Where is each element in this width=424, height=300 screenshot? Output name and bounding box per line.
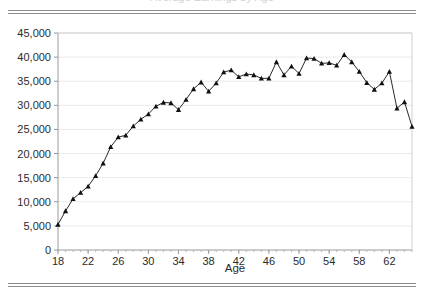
y-tick-label: 45,000 bbox=[17, 27, 51, 39]
data-point-marker bbox=[409, 124, 414, 129]
y-tick-label: 40,000 bbox=[17, 51, 51, 63]
x-tick-label: 34 bbox=[172, 255, 184, 267]
y-tick-label: 15,000 bbox=[17, 172, 51, 184]
x-tick-label: 22 bbox=[82, 255, 94, 267]
bottom-double-rule bbox=[8, 283, 416, 287]
y-tick-label: 30,000 bbox=[17, 99, 51, 111]
x-axis-title: Age bbox=[225, 262, 245, 274]
x-tick-label: 58 bbox=[353, 255, 365, 267]
data-point-marker bbox=[55, 222, 60, 227]
data-point-marker bbox=[63, 208, 68, 213]
data-point-marker bbox=[229, 68, 234, 73]
data-point-marker bbox=[402, 99, 407, 104]
data-point-marker bbox=[387, 69, 392, 74]
chart-figure: Average Earnings by Age 05,00010,00015,0… bbox=[0, 0, 424, 300]
y-tick-label: 35,000 bbox=[17, 75, 51, 87]
line-chart-svg: 05,00010,00015,00020,00025,00030,00035,0… bbox=[0, 24, 424, 274]
data-series-line bbox=[58, 55, 412, 225]
x-tick-label: 50 bbox=[293, 255, 305, 267]
bottom-rule-line-2 bbox=[8, 286, 416, 287]
data-point-marker bbox=[342, 52, 347, 57]
plot-frame bbox=[58, 33, 412, 250]
top-rule-line-1 bbox=[8, 10, 416, 11]
top-double-rule bbox=[8, 10, 416, 14]
x-tick-label: 30 bbox=[142, 255, 154, 267]
data-point-marker bbox=[199, 80, 204, 85]
data-point-marker bbox=[93, 173, 98, 178]
y-tick-label: 25,000 bbox=[17, 123, 51, 135]
gridlines-group bbox=[58, 33, 412, 226]
x-tick-label: 18 bbox=[52, 255, 64, 267]
data-point-markers bbox=[55, 52, 414, 227]
x-tick-label: 26 bbox=[112, 255, 124, 267]
top-rule-line-2 bbox=[8, 13, 416, 14]
x-axis-ticks bbox=[58, 250, 412, 254]
data-point-marker bbox=[274, 59, 279, 64]
data-point-marker bbox=[289, 64, 294, 69]
plot-area: 05,00010,00015,00020,00025,00030,00035,0… bbox=[0, 24, 424, 274]
x-tick-label: 54 bbox=[323, 255, 335, 267]
y-axis-ticks bbox=[54, 33, 58, 250]
x-axis-tick-labels: 182226303438424650545862 bbox=[52, 255, 396, 267]
clipped-title-region: Average Earnings by Age bbox=[0, 0, 424, 8]
y-tick-label: 20,000 bbox=[17, 148, 51, 160]
bottom-rule-line-1 bbox=[8, 283, 416, 284]
x-tick-label: 62 bbox=[383, 255, 395, 267]
y-tick-label: 5,000 bbox=[23, 220, 51, 232]
y-tick-label: 0 bbox=[45, 244, 51, 256]
data-point-marker bbox=[101, 161, 106, 166]
x-tick-label: 38 bbox=[203, 255, 215, 267]
data-point-marker bbox=[153, 104, 158, 109]
chart-title: Average Earnings by Age bbox=[0, 0, 424, 3]
y-tick-label: 10,000 bbox=[17, 196, 51, 208]
x-tick-label: 46 bbox=[263, 255, 275, 267]
y-axis-tick-labels: 05,00010,00015,00020,00025,00030,00035,0… bbox=[17, 27, 51, 256]
